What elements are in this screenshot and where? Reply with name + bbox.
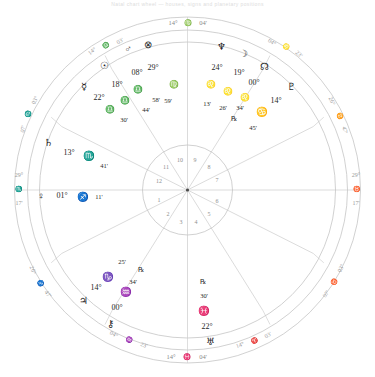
planet-sign-moon: ♌ xyxy=(223,88,233,96)
planet-glyph-saturn: ♄ xyxy=(44,139,53,149)
planet-minute-mercury: 59' xyxy=(164,98,172,105)
cusp-label-asc-deg: 29° xyxy=(15,172,23,178)
cusp-label-ic-deg: 14° xyxy=(166,354,175,361)
house-number-10: 10 xyxy=(177,157,183,163)
planet-degree-jupiter: 14° xyxy=(90,284,101,292)
planet-glyph-pluto: ♇ xyxy=(287,83,296,93)
planet-degree-uranus: 22° xyxy=(201,323,212,331)
planet-glyph-mercury: ☿ xyxy=(81,83,87,93)
cusp-label-mc-sign: ♍ xyxy=(184,20,192,27)
planet-degree-libra-2: 22° xyxy=(93,94,104,102)
planet-sign-pluto: ♋ xyxy=(256,108,268,118)
house-number-11: 11 xyxy=(163,164,169,170)
house-number-8: 8 xyxy=(208,164,211,170)
cusp-label-dsc-deg: 29° xyxy=(352,172,360,178)
cusp-label-ic-sign: ♓ xyxy=(183,354,191,361)
planet-glyph-uranus: ♅ xyxy=(206,338,215,348)
planet-sign-libra-3: ♎ xyxy=(105,106,115,114)
planet-minute-pluto: 45' xyxy=(249,125,257,132)
house-number-3: 3 xyxy=(180,219,183,225)
planet-minute-saturn: 41' xyxy=(100,163,108,170)
planet-minute-aquarius: 34' xyxy=(129,279,137,286)
planet-degree-mercury: 29° xyxy=(147,64,158,72)
planet-glyph-venus: ♀ xyxy=(37,192,44,202)
planet-glyph-chiron: ⚷ xyxy=(107,320,114,330)
cusp-label-h12-min: 07' xyxy=(19,125,26,133)
planet-retrograde-aquarius: ℞ xyxy=(138,267,144,274)
planet-glyph-jupiter: ♃ xyxy=(79,297,88,307)
chart-wheel-graphics xyxy=(0,0,375,377)
planet-minute-libra-1: 58' xyxy=(152,97,160,104)
house-number-12: 12 xyxy=(156,178,162,184)
planet-sign-mercury: ♍ xyxy=(169,81,179,89)
planet-sign-venus: ♐ xyxy=(77,193,89,203)
planet-sign-libra-1: ♎ xyxy=(133,86,143,94)
planet-glyph-moon: ☽ xyxy=(239,50,248,60)
planet-degree-venus: 01° xyxy=(56,192,67,200)
cusp-label-asc-sign: ♏ xyxy=(15,186,22,192)
planet-minute-northnode: 34' xyxy=(236,105,244,112)
planet-glyph-neptune: ♆ xyxy=(217,43,226,53)
planet-minute-uranus: 30' xyxy=(200,293,208,300)
natal-chart: Natal chart wheel — houses, signs and pl… xyxy=(0,0,375,377)
planet-degree-neptune: 24° xyxy=(211,64,222,72)
planet-degree-pluto: 14° xyxy=(270,97,281,105)
planet-degree-libra-1: 18° xyxy=(111,81,122,89)
cusp-label-asc-min: 17' xyxy=(15,200,22,206)
planet-glyph-sun: ☉ xyxy=(100,62,109,72)
cusp-label-mc-min: 04' xyxy=(199,20,207,27)
house-number-1: 1 xyxy=(158,197,161,203)
house-number-6: 6 xyxy=(216,198,219,204)
house-number-9: 9 xyxy=(194,157,197,163)
planet-sign-northnode: ♌ xyxy=(240,94,250,102)
planet-degree-northnode: 00° xyxy=(248,79,259,87)
planet-degree-sun: 08° xyxy=(131,69,142,77)
planet-minute-moon: 26' xyxy=(219,105,227,112)
planet-sign-jupiter: ♑ xyxy=(102,273,114,283)
planet-minute-libra-2: 30' xyxy=(120,117,128,124)
house-number-7: 7 xyxy=(216,177,219,183)
planet-minute-venus: 11' xyxy=(95,194,102,201)
planet-minute-jupiter: 25' xyxy=(118,259,126,266)
planet-sign-aquarius: ♒ xyxy=(120,288,132,298)
cusp-label-h8-min: 47' xyxy=(341,126,348,134)
house-number-5: 5 xyxy=(208,211,211,217)
cusp-label-mc-deg: 14° xyxy=(168,20,177,27)
planet-degree-moon: 19° xyxy=(233,69,244,77)
cusp-label-dsc-sign: ♉ xyxy=(353,186,360,192)
planet-sign-saturn: ♏ xyxy=(83,152,95,162)
planet-retrograde-uranus: ℞ xyxy=(200,279,206,286)
planet-glyph-mars: ♂ xyxy=(124,45,131,55)
chart-center-point xyxy=(186,188,189,191)
planet-glyph-fortune: ⊗ xyxy=(144,41,152,51)
planet-minute-neptune: 13' xyxy=(203,101,211,108)
planet-retrograde-northnode: ℞ xyxy=(231,116,237,123)
planet-sign-libra-2: ♎ xyxy=(120,97,130,105)
planet-degree-saturn: 13° xyxy=(63,149,74,157)
planet-sign-uranus: ♓ xyxy=(198,307,210,317)
planet-degree-aquarius: 00° xyxy=(111,304,122,312)
house-number-2: 2 xyxy=(167,211,170,217)
cusp-label-ic-min: 04' xyxy=(199,354,207,361)
cusp-label-dsc-min: 17' xyxy=(352,200,359,206)
planet-minute-sun: 44' xyxy=(142,107,150,114)
house-number-4: 4 xyxy=(195,219,198,225)
planet-sign-neptune: ♌ xyxy=(206,81,216,89)
planet-glyph-northnode: ☊ xyxy=(260,63,269,73)
